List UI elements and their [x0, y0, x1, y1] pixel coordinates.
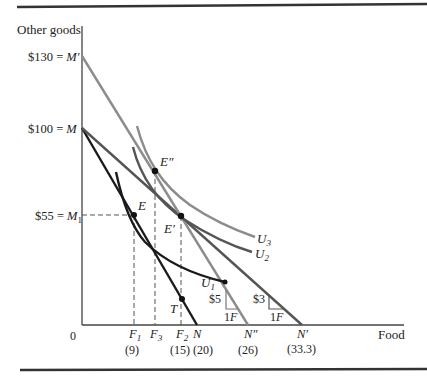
x-tick-n-double: N″	[243, 327, 258, 341]
u1-end	[223, 280, 228, 285]
consumer-choice-diagram: Other goods Food 0 $130 = M′ $100 = M $5…	[0, 0, 427, 378]
budget-line-mn	[82, 128, 197, 325]
label-u1: U1	[201, 275, 215, 292]
x-tick-f1: F1	[128, 327, 141, 343]
slope-rise-3: $3	[253, 292, 265, 306]
x-value-f2: (15)	[170, 343, 190, 357]
point-e	[131, 212, 137, 218]
point-e-prime	[178, 213, 184, 219]
y-axis-label: Other goods	[17, 22, 81, 37]
point-e-double-prime	[152, 168, 158, 174]
budget-line-m-prime-n-double	[82, 56, 248, 325]
x-tick-f3: F3	[149, 327, 163, 343]
label-e-double-prime: E″	[159, 154, 174, 169]
label-t: T	[170, 301, 178, 316]
label-e: E	[137, 198, 146, 213]
slope-run-5: 1F	[224, 310, 238, 324]
point-t	[179, 296, 185, 302]
y-tick-m-prime: $130 = M′	[28, 50, 80, 64]
x-tick-f2: F2	[175, 327, 189, 343]
x-tick-n: N	[192, 327, 202, 341]
slope-rise-5: $5	[209, 292, 221, 306]
top-rule	[17, 4, 427, 7]
slope-run-3: 1F	[270, 310, 284, 324]
y-tick-m: $100 = M	[28, 122, 77, 136]
x-axis-label: Food	[378, 327, 405, 342]
y-tick-m1: $55 = M1	[35, 209, 82, 225]
x-tick-n-prime: N′	[296, 327, 308, 341]
origin-label: 0	[70, 329, 76, 343]
x-value-n-prime: (33.3)	[287, 342, 316, 356]
bottom-rule	[20, 369, 427, 370]
x-value-n-double: (26)	[238, 343, 258, 357]
label-u2: U2	[255, 246, 269, 263]
label-e-prime: E′	[163, 221, 175, 236]
x-value-f1: (9)	[125, 343, 139, 357]
label-u3: U3	[257, 231, 271, 248]
x-value-n: (20)	[193, 343, 213, 357]
